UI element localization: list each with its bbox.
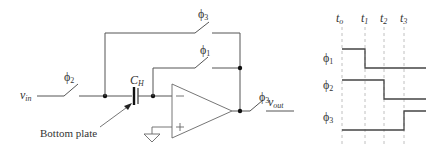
- time-label-t1: t1: [361, 11, 368, 26]
- node-output: [238, 109, 242, 113]
- switch-label-phi2: ϕ2: [64, 70, 74, 85]
- node-feedback: [238, 66, 242, 70]
- phase-label-phi3: ϕ3: [323, 110, 333, 125]
- ground-icon: [144, 134, 160, 142]
- time-label-t2: t2: [380, 11, 387, 26]
- time-label-to: to: [336, 11, 343, 26]
- annotation-arrow: [100, 105, 130, 127]
- bottom-plate-annotation: Bottom plate: [40, 127, 97, 139]
- reset-switch-phi1: [153, 57, 208, 96]
- switch-label-phi3-top: ϕ3: [198, 7, 208, 22]
- time-label-t3: t3: [400, 11, 407, 26]
- vout-label: vout: [268, 95, 284, 110]
- opamp-triangle: [172, 84, 232, 138]
- waveform-phi2: [342, 80, 426, 99]
- phase-label-phi1: ϕ1: [323, 51, 333, 66]
- vin-label: vin: [20, 88, 32, 103]
- timing-diagram: to t1 t2 t3 ϕ1 ϕ2 ϕ3: [323, 11, 426, 146]
- feedback-wire-top: [212, 33, 240, 111]
- phase-label-phi2: ϕ2: [323, 78, 333, 93]
- feedback-switch-phi3: [105, 22, 209, 96]
- sample-and-hold-diagram: vin ϕ2 CH ϕ3 ϕ1 ϕ3 vout Bottom plate to …: [0, 0, 448, 151]
- plus-input-wire: [152, 127, 172, 134]
- input-switch-phi2: [64, 84, 78, 96]
- switch-label-phi1: ϕ1: [200, 43, 210, 58]
- capacitor-label: CH: [130, 73, 145, 88]
- circuit-schematic: vin ϕ2 CH ϕ3 ϕ1 ϕ3 vout Bottom plate: [20, 7, 294, 142]
